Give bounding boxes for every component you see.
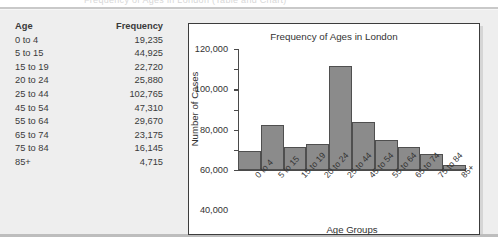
table-row: 85+4,715 [14, 156, 166, 170]
content-panel: Age Frequency 0 to 419,2355 to 1544,9251… [0, 9, 498, 234]
table-row: 20 to 2425,880 [14, 74, 166, 88]
cell-frequency: 47,310 [92, 102, 166, 116]
chart-title: Frequency of Ages in London [189, 31, 479, 42]
y-axis-tick: 120,000 [234, 49, 238, 50]
cut-off-heading-text: Frequency of Ages in London (Table and C… [84, 0, 287, 5]
y-axis-tick-label: 120,000 [195, 44, 228, 54]
cell-frequency: 19,235 [92, 34, 166, 48]
bottom-margin [0, 237, 498, 243]
y-axis-tick-label: 100,000 [195, 84, 228, 94]
cell-frequency: 16,145 [92, 142, 166, 156]
cell-age: 25 to 44 [14, 88, 92, 102]
table-row: 45 to 5447,310 [14, 102, 166, 116]
table-row: 25 to 44102,765 [14, 88, 166, 102]
cell-age: 85+ [14, 156, 92, 170]
y-axis-title: Number of Cases [189, 72, 200, 147]
cell-age: 45 to 54 [14, 102, 92, 116]
cell-frequency: 25,880 [92, 74, 166, 88]
panel-highlight [0, 9, 498, 10]
cell-frequency: 29,670 [92, 115, 166, 129]
cell-age: 75 to 84 [14, 142, 92, 156]
table-row: 55 to 6429,670 [14, 115, 166, 129]
table-header-row: Age Frequency [14, 20, 166, 34]
y-axis-tick-label: 40,000 [200, 205, 228, 215]
y-axis-tick: 0 [234, 170, 238, 171]
cut-off-heading-remnant: Frequency of Ages in London (Table and C… [0, 0, 498, 7]
table-body: 0 to 419,2355 to 1544,92515 to 1922,7202… [14, 34, 166, 170]
table-row: 65 to 7423,175 [14, 129, 166, 143]
y-axis-tick-label: 60,000 [200, 165, 228, 175]
cell-age: 65 to 74 [14, 129, 92, 143]
cell-age: 15 to 19 [14, 61, 92, 75]
table-row: 75 to 8416,145 [14, 142, 166, 156]
cell-frequency: 22,720 [92, 61, 166, 75]
cell-frequency: 44,925 [92, 47, 166, 61]
cell-frequency: 23,175 [92, 129, 166, 143]
y-axis-tick: 60,000 [234, 110, 238, 111]
x-axis-title: Age Groups [238, 224, 466, 235]
cell-age: 55 to 64 [14, 115, 92, 129]
plot-area: Number of Cases 020,00040,00060,00080,00… [238, 49, 466, 170]
cell-frequency: 4,715 [92, 156, 166, 170]
cell-frequency: 102,765 [92, 88, 166, 102]
y-axis-tick-label: 80,000 [200, 125, 228, 135]
chart-card: Frequency of Ages in London Number of Ca… [188, 23, 480, 235]
table-row: 15 to 1922,720 [14, 61, 166, 75]
table-row: 0 to 419,235 [14, 34, 166, 48]
column-header-frequency: Frequency [92, 20, 166, 34]
cell-age: 20 to 24 [14, 74, 92, 88]
cell-age: 5 to 15 [14, 47, 92, 61]
y-axis-tick: 100,000 [234, 69, 238, 70]
frequency-table: Age Frequency 0 to 419,2355 to 1544,9251… [14, 20, 166, 170]
cell-age: 0 to 4 [14, 34, 92, 48]
y-axis-tick: 40,000 [234, 130, 238, 131]
y-axis-tick: 80,000 [234, 89, 238, 90]
column-header-age: Age [14, 20, 92, 34]
table-row: 5 to 1544,925 [14, 47, 166, 61]
